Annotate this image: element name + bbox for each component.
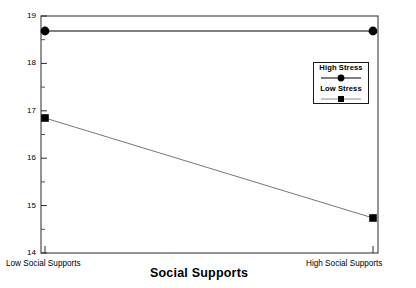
square-marker — [319, 95, 363, 103]
plot-frame — [41, 16, 378, 253]
legend-item-low-stress: Low Stress — [314, 84, 368, 105]
y-minor-ticks — [41, 40, 45, 230]
y-axis-title: EPI Neuroticism — [0, 0, 18, 230]
series-high-stress — [41, 27, 378, 36]
circle-marker — [319, 74, 363, 82]
legend-label-high-stress: High Stress — [314, 63, 368, 72]
chart-legend: High Stress Low Stress — [313, 62, 369, 104]
chart-figure: 19 18 17 16 15 14 Low Social Supports Hi… — [0, 0, 416, 288]
legend-item-high-stress: High Stress — [314, 63, 368, 84]
series-low-stress-point-high — [369, 214, 377, 222]
series-high-stress-point-low — [41, 27, 50, 36]
y-tick-label-14: 14 — [14, 248, 36, 257]
x-axis-title: Social Supports — [150, 266, 248, 280]
series-low-stress-line — [45, 118, 373, 218]
plot-area — [0, 0, 416, 288]
x-ticks — [45, 246, 373, 253]
series-low-stress-point-low — [41, 114, 49, 122]
series-low-stress — [41, 114, 377, 222]
series-high-stress-point-high — [369, 27, 378, 36]
legend-label-low-stress: Low Stress — [314, 84, 368, 93]
x-tick-label-low: Low Social Supports — [6, 259, 81, 268]
x-tick-label-high: High Social Supports — [306, 259, 382, 268]
